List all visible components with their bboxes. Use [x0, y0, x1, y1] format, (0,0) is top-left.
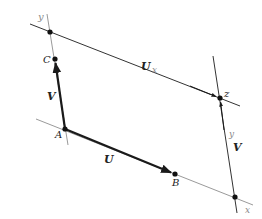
axis-y-label-right: y: [228, 129, 235, 139]
vector-V-left: [56, 63, 66, 129]
vector-Ux-arrow: [190, 86, 216, 97]
vector-V-right-arrow: [221, 102, 224, 130]
point-A-label: A: [54, 129, 62, 140]
axis-x-label-bottom-right: x: [245, 205, 250, 215]
vector-U-top-subscript: x: [152, 65, 157, 75]
point-Z-label: z: [223, 88, 230, 99]
axis-y-label-top-left: y: [37, 11, 44, 22]
vector-V-right-label: V: [233, 141, 243, 154]
vector-U-top-label: U: [141, 60, 152, 73]
point-B-label: B: [171, 177, 179, 188]
vector-V-left-label: V: [47, 90, 57, 103]
point-A: [62, 126, 67, 131]
point-C: [52, 56, 57, 61]
point-Z: [217, 95, 222, 100]
point-top-left-intersection: [47, 29, 52, 34]
vector-U-bottom-label: U: [104, 153, 115, 166]
point-C-label: C: [43, 54, 51, 65]
point-bottom-right-intersection: [232, 194, 237, 199]
vector-U-bottom: [65, 129, 171, 173]
vector-diagram: y C V A U B U x z y V x: [0, 0, 262, 219]
point-B: [172, 171, 177, 176]
